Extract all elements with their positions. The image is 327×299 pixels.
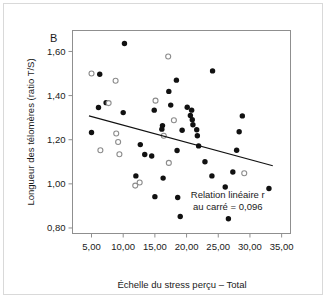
data-point-filled xyxy=(210,68,215,73)
data-point-open xyxy=(116,139,121,144)
y-tick-label: 1,20 xyxy=(47,134,66,145)
data-point-filled xyxy=(194,127,199,132)
x-tick-label: 15,00 xyxy=(143,241,167,252)
data-point-filled xyxy=(195,133,200,138)
x-axis-tick-labels: 5,0010,0015,0020,0025,0030,0035,00 xyxy=(82,241,293,252)
y-axis-title: Longueur des télomères (ratio T/S) xyxy=(25,58,36,205)
annotation-line-2: au carré = 0,096 xyxy=(193,201,262,212)
data-point-filled xyxy=(175,195,180,200)
x-tick-label: 10,00 xyxy=(111,241,135,252)
data-point-filled xyxy=(159,126,164,131)
data-point-filled xyxy=(202,159,207,164)
y-tick-label: 1,00 xyxy=(47,178,66,189)
data-point-filled xyxy=(152,194,157,199)
scatter-plot-chart: B 5,0010,0015,0020,0025,0030,0035,00 0,8… xyxy=(0,0,327,299)
data-point-filled xyxy=(230,169,235,174)
data-point-filled xyxy=(240,113,245,118)
data-point-filled xyxy=(97,71,102,76)
data-point-filled xyxy=(152,107,157,112)
panel-letter: B xyxy=(50,32,57,44)
data-point-open xyxy=(113,78,118,83)
figure-container: B 5,0010,0015,0020,0025,0030,0035,00 0,8… xyxy=(0,0,327,299)
data-point-filled xyxy=(96,105,101,110)
data-point-filled xyxy=(120,110,125,115)
data-point-filled xyxy=(122,41,127,46)
data-point-filled xyxy=(236,129,241,134)
y-axis-ticks xyxy=(69,51,73,228)
data-point-filled xyxy=(133,173,138,178)
data-point-filled xyxy=(178,214,183,219)
y-tick-label: 1,40 xyxy=(47,90,66,101)
data-point-open xyxy=(98,148,103,153)
y-tick-label: 0,80 xyxy=(47,222,66,233)
data-point-filled xyxy=(190,122,195,127)
data-point-open xyxy=(117,152,122,157)
x-tick-label: 20,00 xyxy=(175,241,199,252)
data-point-filled xyxy=(138,142,143,147)
data-point-filled xyxy=(142,152,147,157)
x-axis-title: Échelle du stress perçu – Total xyxy=(117,279,246,290)
data-point-open xyxy=(242,171,247,176)
y-tick-label: 1,60 xyxy=(47,46,66,57)
data-point-open xyxy=(89,71,94,76)
data-point-open xyxy=(166,54,171,59)
data-point-open xyxy=(106,101,111,106)
data-point-open xyxy=(114,131,119,136)
x-tick-label: 35,00 xyxy=(270,241,294,252)
x-axis-ticks xyxy=(92,234,282,238)
data-point-open xyxy=(166,160,171,165)
data-point-filled xyxy=(174,77,179,82)
data-point-filled xyxy=(166,89,171,94)
y-axis-tick-labels: 0,801,001,201,401,60 xyxy=(47,46,66,234)
data-point-filled xyxy=(168,102,173,107)
data-point-filled xyxy=(234,148,239,153)
data-point-filled xyxy=(160,175,165,180)
data-point-filled xyxy=(89,130,94,135)
data-point-filled xyxy=(190,117,195,122)
data-point-filled xyxy=(189,107,194,112)
data-point-filled xyxy=(179,128,184,133)
x-tick-label: 30,00 xyxy=(238,241,262,252)
data-point-filled xyxy=(185,105,190,110)
annotation-line-1: Relation linéaire r xyxy=(191,189,265,200)
data-point-filled xyxy=(226,216,231,221)
data-point-filled xyxy=(209,173,214,178)
data-point-filled xyxy=(149,153,154,158)
data-point-open xyxy=(153,98,158,103)
data-point-open xyxy=(137,180,142,185)
data-point-filled xyxy=(266,186,271,191)
x-tick-label: 25,00 xyxy=(206,241,230,252)
data-point-open xyxy=(171,118,176,123)
x-tick-label: 5,00 xyxy=(82,241,101,252)
data-point-filled xyxy=(174,148,179,153)
